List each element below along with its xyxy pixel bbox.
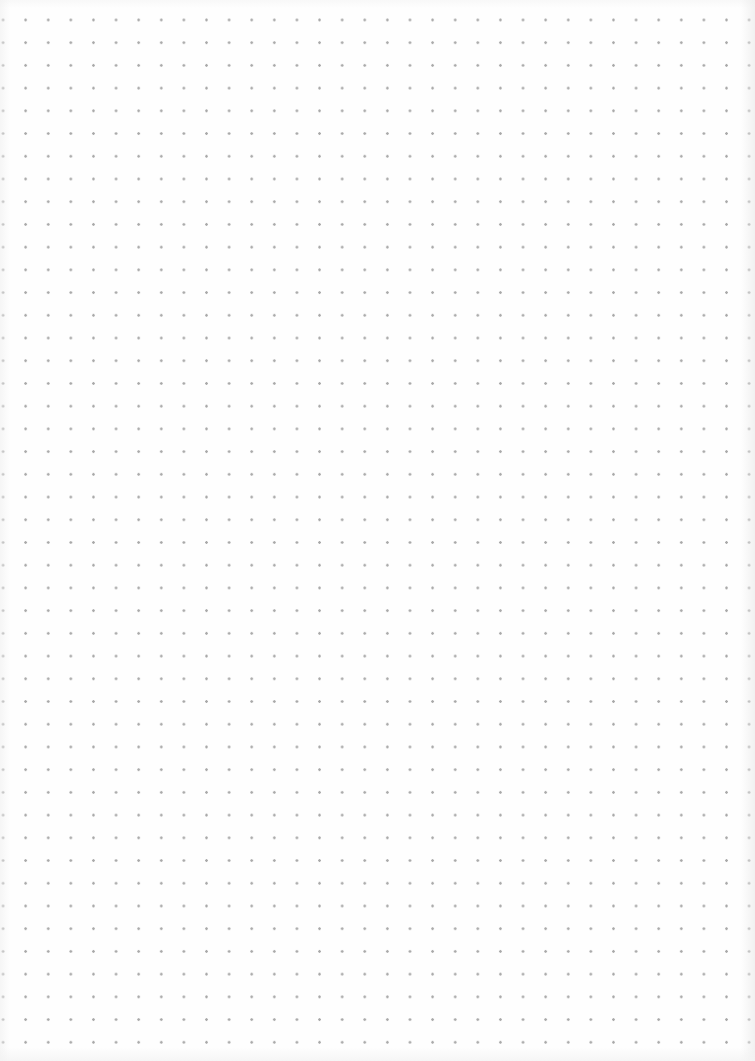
page-edge-shadow-left: [0, 0, 10, 1061]
page-edge-shadow-top: [0, 0, 755, 8]
page-edge-shadow-right: [741, 0, 755, 1061]
page-edge-shadow-bottom: [0, 1047, 755, 1061]
dot-grid-page: [0, 0, 755, 1061]
